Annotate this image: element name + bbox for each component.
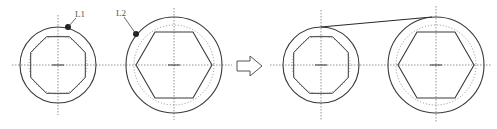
label-l2: L2 (116, 8, 126, 18)
label-l1: L1 (75, 9, 85, 19)
label-l1-marker: L1 (65, 9, 85, 30)
diagram-canvas: L1 L2 (0, 0, 497, 129)
transform-arrow-icon (237, 56, 262, 76)
label-l2-marker: L2 (116, 8, 139, 37)
